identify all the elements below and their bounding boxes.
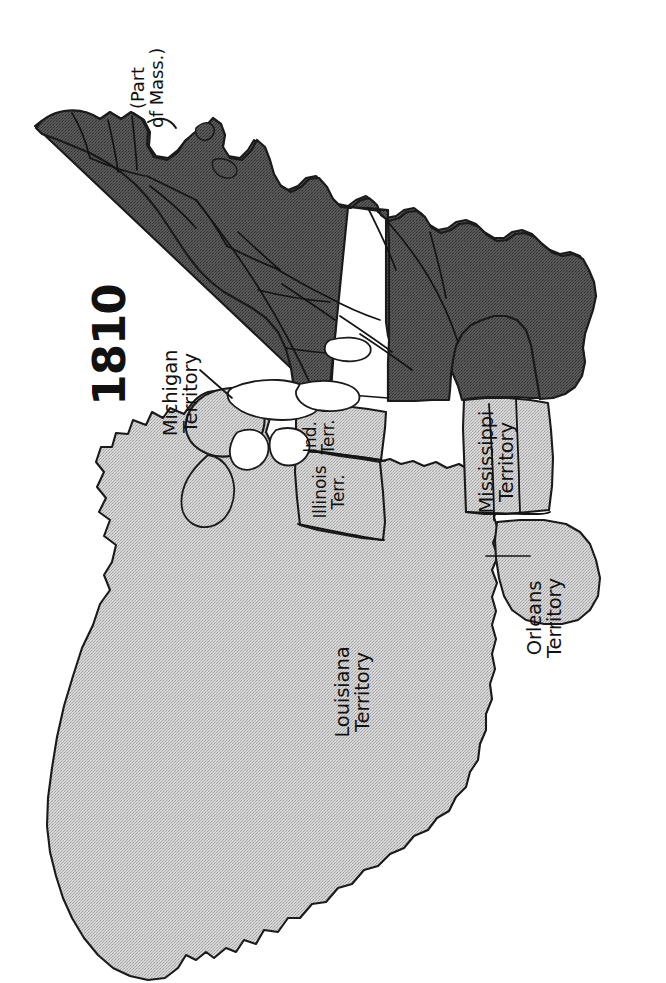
- historical-map-1810: 1810 (Partof Mass.) MichiganTerritory In…: [0, 0, 666, 983]
- region-mississippi-territory: [463, 398, 553, 514]
- lake-ontario: [325, 338, 371, 362]
- mass-annotation-arc: [148, 119, 176, 128]
- region-louisiana-territory: [47, 390, 500, 980]
- lake-huron: [270, 428, 310, 466]
- lake-erie: [296, 381, 360, 411]
- map-graphic: [0, 0, 666, 983]
- cape-cod: [196, 123, 215, 141]
- region-orleans-territory: [495, 520, 600, 624]
- lake-michigan: [230, 430, 269, 470]
